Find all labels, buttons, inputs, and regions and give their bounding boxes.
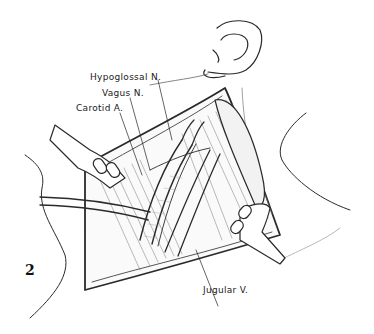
dissection-drawing (0, 0, 374, 334)
label-vagus-nerve: Vagus N. (102, 88, 144, 98)
label-carotid-artery: Carotid A. (76, 103, 123, 113)
figure-number: 2 (25, 262, 35, 278)
illustration-canvas: Hypoglossal N. Vagus N. Carotid A. Jugul… (0, 0, 374, 334)
label-hypoglossal-nerve: Hypoglossal N. (90, 72, 161, 82)
ear-outline (204, 21, 262, 78)
label-jugular-vein: Jugular V. (203, 285, 248, 295)
